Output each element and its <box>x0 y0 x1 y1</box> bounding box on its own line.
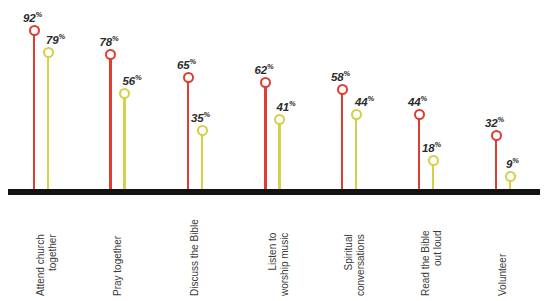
category-label-line: Listen to <box>267 233 279 296</box>
value-label: 44% <box>355 94 374 108</box>
value-label: 65% <box>177 57 196 71</box>
lollipop-marker <box>260 77 271 88</box>
category-label-line: Read the Bible <box>420 230 432 296</box>
lollipop-marker <box>491 130 502 141</box>
value-label: 58% <box>331 69 350 83</box>
lollipop-stem <box>278 120 281 192</box>
category-label: Spiritualconversations <box>343 234 366 296</box>
lollipop-marker <box>197 125 208 136</box>
lollipop-stem <box>33 30 36 192</box>
value-label: 56% <box>123 73 142 87</box>
lollipop-marker <box>428 155 439 166</box>
value-label: 32% <box>485 115 504 129</box>
category-label-line: out loud <box>432 230 444 296</box>
category-label-line: Discuss the Bible <box>189 219 201 296</box>
value-label: 79% <box>46 32 65 46</box>
category-label: Discuss the Bible <box>189 219 201 296</box>
lollipop-stem <box>355 115 358 192</box>
value-label: 35% <box>191 110 210 124</box>
lollipop-marker <box>337 84 348 95</box>
lollipop-marker <box>43 47 54 58</box>
lollipop-stem <box>341 90 344 192</box>
value-label: 78% <box>100 34 119 48</box>
lollipop-marker <box>505 171 516 182</box>
category-label: Listen toworship music <box>267 233 290 296</box>
category-label-line: Attend church <box>35 234 47 296</box>
category-label-line: Pray together <box>112 236 124 296</box>
lollipop-stem <box>47 53 50 192</box>
category-label: Volunteer <box>497 254 509 296</box>
lollipop-stem <box>201 130 204 192</box>
lollipop-stem <box>418 115 421 192</box>
lollipop-stem <box>187 78 190 192</box>
lollipop-marker <box>274 114 285 125</box>
category-label: Attend churchtogether <box>35 234 58 296</box>
value-label: 18% <box>422 140 441 154</box>
value-label: 41% <box>277 99 296 113</box>
lollipop-marker <box>105 49 116 60</box>
category-label-line: Volunteer <box>497 254 509 296</box>
lollipop-stem <box>495 136 498 192</box>
lollipop-stem <box>109 55 112 192</box>
lollipop-marker <box>119 88 130 99</box>
value-label: 9% <box>506 156 519 170</box>
category-label-line: conversations <box>355 234 367 296</box>
lollipop-marker <box>29 25 40 36</box>
category-label: Read the Bibleout loud <box>420 230 443 296</box>
lollipop-marker <box>351 109 362 120</box>
baseline-axis <box>8 189 540 195</box>
value-label: 44% <box>408 94 427 108</box>
lollipop-stem <box>123 93 126 192</box>
category-label-line: worship music <box>278 233 290 296</box>
lollipop-marker <box>414 109 425 120</box>
value-label: 92% <box>23 10 42 24</box>
category-label-line: Spiritual <box>343 234 355 296</box>
lollipop-stem <box>264 83 267 192</box>
category-label: Pray together <box>112 236 124 296</box>
lollipop-marker <box>183 72 194 83</box>
value-label: 62% <box>255 62 274 76</box>
lollipop-chart: 92%78%65%62%58%44%32%79%56%35%41%44%18%9… <box>0 0 550 301</box>
category-label-line: together <box>47 234 59 296</box>
